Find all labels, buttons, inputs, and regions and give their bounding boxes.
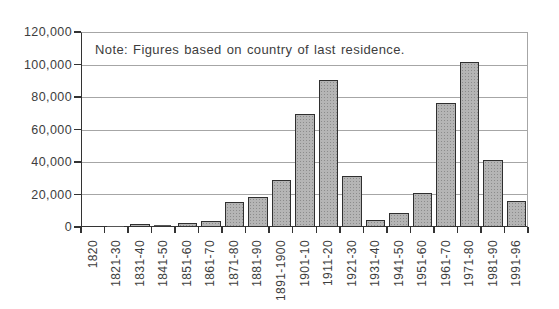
bar-1841-50 — [154, 225, 172, 226]
x-tick-mark — [80, 227, 82, 233]
x-tick-mark — [527, 227, 529, 233]
y-axis-label: 0 — [0, 220, 72, 234]
x-axis-label: 1831-40 — [133, 240, 147, 308]
bar-1881-90 — [248, 197, 268, 226]
y-tick-mark — [74, 64, 81, 66]
plot-area — [81, 32, 528, 227]
bar-1901-10 — [295, 114, 315, 226]
x-axis-label: 1841-50 — [156, 240, 170, 308]
y-tick-mark — [74, 194, 81, 196]
x-axis-label: 1881-90 — [250, 240, 264, 308]
y-axis-label: 100,000 — [0, 58, 72, 72]
x-axis-label: 1891-1900 — [274, 240, 288, 308]
y-axis-label: 20,000 — [0, 188, 72, 202]
x-axis-label: 1871-80 — [227, 240, 241, 308]
x-tick-mark — [386, 227, 388, 233]
x-axis-label: 1991-96 — [509, 240, 523, 308]
x-tick-mark — [198, 227, 200, 233]
x-tick-mark — [127, 227, 129, 233]
x-tick-mark — [457, 227, 459, 233]
x-axis-label: 1931-40 — [368, 240, 382, 308]
bar-1951-60 — [413, 193, 433, 226]
y-tick-mark — [74, 96, 81, 98]
x-tick-mark — [174, 227, 176, 233]
bar-1931-40 — [366, 220, 386, 226]
immigration-bar-chart: Note: Figures based on country of last r… — [0, 0, 559, 309]
bar-1921-30 — [342, 176, 362, 226]
x-tick-mark — [433, 227, 435, 233]
x-tick-mark — [245, 227, 247, 233]
bar-1981-90 — [483, 160, 503, 226]
x-axis-label: 1971-80 — [462, 240, 476, 308]
bar-1991-96 — [507, 201, 527, 226]
bar-1961-70 — [436, 103, 456, 226]
y-tick-mark — [74, 129, 81, 131]
x-axis-label: 1851-60 — [180, 240, 194, 308]
y-tick-mark — [74, 31, 81, 33]
x-tick-mark — [480, 227, 482, 233]
x-tick-mark — [292, 227, 294, 233]
x-tick-mark — [339, 227, 341, 233]
bar-1941-50 — [389, 213, 409, 226]
bar-1831-40 — [130, 224, 150, 226]
x-tick-mark — [104, 227, 106, 233]
x-tick-mark — [151, 227, 153, 233]
x-axis-label: 1951-60 — [415, 240, 429, 308]
bar-1871-80 — [225, 202, 245, 226]
x-axis-label: 1901-10 — [298, 240, 312, 308]
x-tick-mark — [504, 227, 506, 233]
y-tick-mark — [74, 161, 81, 163]
x-axis-label: 1921-30 — [345, 240, 359, 308]
x-axis-label: 1861-70 — [203, 240, 217, 308]
x-axis-label: 1961-70 — [439, 240, 453, 308]
y-axis-label: 60,000 — [0, 123, 72, 137]
bar-1851-60 — [178, 223, 198, 226]
x-axis-label: 1981-90 — [486, 240, 500, 308]
x-axis-label: 1911-20 — [321, 240, 335, 308]
x-tick-mark — [268, 227, 270, 233]
bar-1911-20 — [319, 80, 339, 226]
x-tick-mark — [316, 227, 318, 233]
bar-1861-70 — [201, 221, 221, 226]
y-axis-label: 120,000 — [0, 25, 72, 39]
x-axis-label: 1821-30 — [109, 240, 123, 308]
x-tick-mark — [363, 227, 365, 233]
bar-1971-80 — [460, 62, 480, 226]
y-axis-label: 80,000 — [0, 90, 72, 104]
x-axis-label: 1941-50 — [392, 240, 406, 308]
bar-1891-1900 — [272, 180, 292, 226]
x-tick-mark — [221, 227, 223, 233]
x-tick-mark — [410, 227, 412, 233]
x-axis-label: 1820 — [86, 240, 100, 308]
y-axis-label: 40,000 — [0, 155, 72, 169]
